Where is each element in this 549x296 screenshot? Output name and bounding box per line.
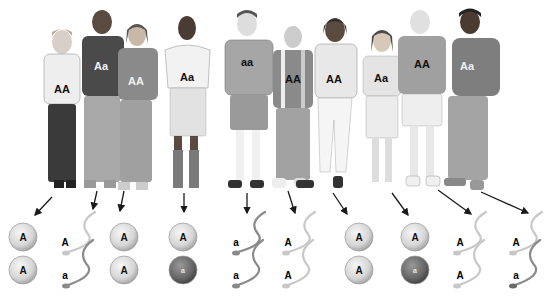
- sperm-allele-9a: A: [456, 238, 463, 248]
- person-3: [118, 24, 158, 190]
- egg-allele-4a: A: [179, 233, 186, 243]
- sperm-allele-5a: a: [233, 238, 239, 248]
- person-1: [44, 29, 80, 188]
- genotype-label-1: AA: [54, 84, 70, 95]
- arrows: [35, 190, 528, 215]
- sperm-allele-10a: A: [512, 238, 519, 248]
- egg-allele-8b: a: [413, 266, 417, 276]
- sperm-allele-6b: A: [284, 271, 291, 281]
- person-9: [398, 10, 446, 186]
- sperm-allele-9b: A: [456, 271, 463, 281]
- person-6: [272, 26, 313, 188]
- genotype-label-3: AA: [128, 76, 144, 87]
- person-5: [225, 10, 273, 188]
- genotype-label-5: aa: [241, 57, 253, 68]
- person-10: [444, 9, 500, 191]
- illustration: [0, 0, 549, 296]
- genotype-label-8: Aa: [374, 73, 388, 84]
- person-2: [82, 10, 124, 188]
- egg-allele-1b: A: [19, 266, 26, 276]
- egg-allele-8a: A: [411, 233, 418, 243]
- sperm-allele-2a: A: [61, 238, 68, 248]
- eggs: [9, 223, 429, 284]
- genotype-label-7: AA: [326, 74, 342, 85]
- egg-allele-4b: a: [181, 266, 185, 276]
- egg-allele-1a: A: [19, 233, 26, 243]
- genotype-label-6: AA: [285, 74, 301, 85]
- sperm-allele-5b: a: [233, 271, 239, 281]
- genotype-label-10: Aa: [460, 61, 474, 72]
- egg-allele-7b: A: [355, 266, 362, 276]
- genotype-gamete-diagram: AA Aa AA Aa aa AA AA Aa AA Aa A A A A A …: [0, 0, 549, 296]
- person-8: [363, 30, 401, 182]
- sperm-allele-6a: A: [284, 238, 291, 248]
- genotype-label-2: Aa: [94, 61, 108, 72]
- genotype-label-9: AA: [414, 59, 430, 70]
- person-4: [165, 16, 210, 188]
- sperm-allele-2b: a: [62, 271, 68, 281]
- sperm-allele-10b: a: [513, 271, 519, 281]
- egg-allele-7a: A: [355, 233, 362, 243]
- genotype-label-4: Aa: [180, 72, 194, 83]
- egg-allele-3b: A: [120, 266, 127, 276]
- egg-allele-3a: A: [120, 233, 127, 243]
